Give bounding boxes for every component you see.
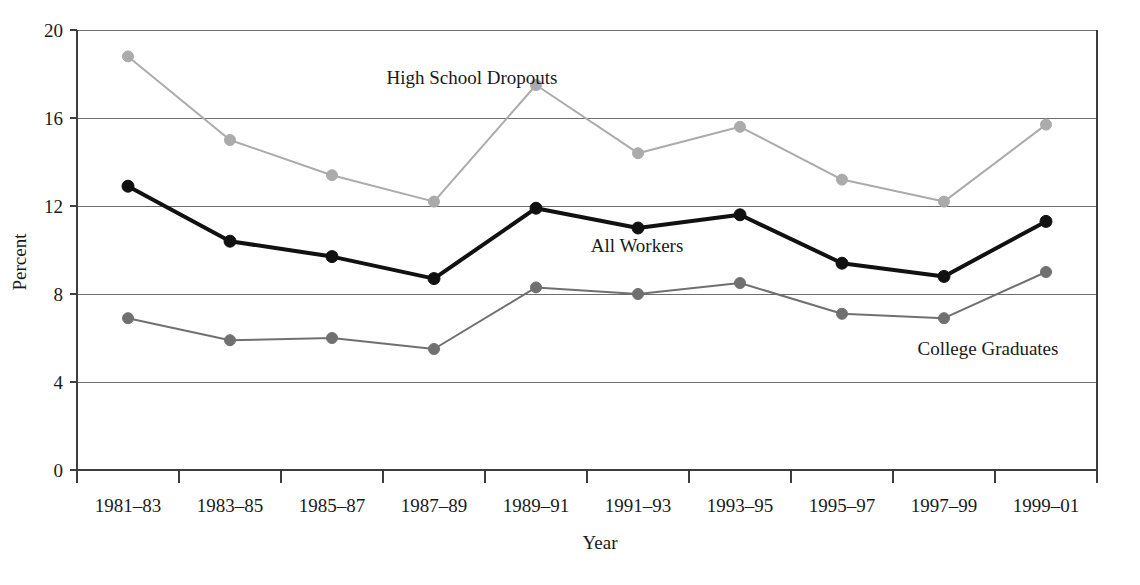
series-line — [128, 186, 1046, 278]
line-chart: 048121620 1981–831983–851985–871987–8919… — [0, 0, 1140, 585]
data-point — [837, 308, 848, 319]
x-axis-tick-labels: 1981–831983–851985–871987–891989–911991–… — [95, 495, 1080, 516]
data-series — [122, 51, 1052, 355]
data-point — [428, 273, 440, 285]
data-point — [530, 202, 542, 214]
x-tick-label: 1991–93 — [605, 495, 672, 516]
series-annotation-college-graduates: College Graduates — [918, 338, 1059, 359]
data-point — [734, 209, 746, 221]
data-point — [327, 170, 338, 181]
x-tick-label: 1995–97 — [809, 495, 876, 516]
y-tick-label: 8 — [54, 284, 64, 305]
series-annotation-all-workers: All Workers — [591, 235, 684, 256]
data-point — [225, 335, 236, 346]
data-point — [633, 148, 644, 159]
data-point — [531, 282, 542, 293]
data-point — [1041, 267, 1052, 278]
gridlines — [77, 30, 1097, 470]
data-point — [224, 235, 236, 247]
data-point — [632, 222, 644, 234]
series-all-workers — [122, 180, 1052, 284]
series-college-graduates — [123, 267, 1052, 355]
data-point — [1040, 215, 1052, 227]
data-point — [837, 174, 848, 185]
axis-lines — [77, 30, 1097, 470]
data-point — [327, 333, 338, 344]
x-tick-label: 1999–01 — [1013, 495, 1080, 516]
series-high-school-dropouts — [123, 51, 1052, 207]
data-point — [326, 251, 338, 263]
x-tick-label: 1997–99 — [911, 495, 978, 516]
y-axis-tick-labels: 048121620 — [44, 20, 64, 481]
y-tick-label: 20 — [44, 20, 63, 41]
data-point — [939, 313, 950, 324]
axis-tickmarks — [70, 30, 1097, 483]
data-point — [633, 289, 644, 300]
series-line — [128, 56, 1046, 201]
x-tick-label: 1987–89 — [401, 495, 468, 516]
data-point — [429, 344, 440, 355]
data-point — [938, 270, 950, 282]
data-point — [429, 196, 440, 207]
data-point — [122, 180, 134, 192]
data-point — [735, 121, 746, 132]
y-axis-title: Percent — [9, 233, 30, 291]
data-point — [836, 257, 848, 269]
series-line — [128, 272, 1046, 349]
y-tick-label: 12 — [44, 196, 63, 217]
x-tick-label: 1983–85 — [197, 495, 264, 516]
x-tick-label: 1993–95 — [707, 495, 774, 516]
data-point — [123, 51, 134, 62]
y-tick-label: 16 — [44, 108, 63, 129]
x-tick-label: 1985–87 — [299, 495, 366, 516]
data-point — [123, 313, 134, 324]
x-tick-label: 1989–91 — [503, 495, 570, 516]
data-point — [735, 278, 746, 289]
data-point — [225, 135, 236, 146]
series-annotation-high-school-dropouts: High School Dropouts — [387, 67, 558, 88]
data-point — [1041, 119, 1052, 130]
chart-container: 048121620 1981–831983–851985–871987–8919… — [0, 0, 1140, 585]
series-annotations: High School DropoutsAll WorkersCollege G… — [387, 67, 1059, 359]
x-tick-label: 1981–83 — [95, 495, 162, 516]
data-point — [939, 196, 950, 207]
y-tick-label: 4 — [54, 372, 64, 393]
y-tick-label: 0 — [54, 460, 64, 481]
x-axis-title: Year — [582, 532, 618, 553]
